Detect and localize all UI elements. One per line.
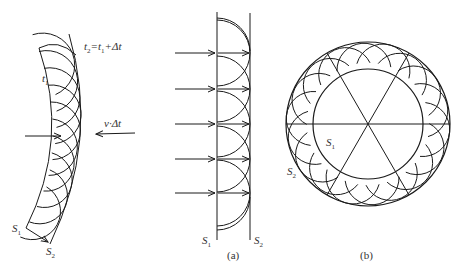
- s1-subscript: 1: [208, 241, 212, 249]
- t1-subscript: 1: [45, 79, 49, 87]
- label-plane-s2: S2: [254, 234, 263, 249]
- label-plane-s1: S1: [202, 234, 211, 249]
- label-sphere-s2: S2: [287, 165, 296, 180]
- cropped-footer-text: [0, 270, 464, 278]
- incident-arrows: [175, 53, 249, 193]
- label-velocity-delta-t: v·Δt: [104, 117, 121, 129]
- wavelet-arc-top: [217, 18, 250, 51]
- wavelet-arc: [49, 119, 78, 175]
- s2-subscript: 2: [52, 252, 56, 260]
- spherical-wavefront-figure: [286, 42, 450, 206]
- label-t2-equation: t2=t1+Δt: [84, 40, 121, 55]
- s1-subscript: 1: [332, 143, 336, 151]
- caption-b: (b): [360, 249, 373, 261]
- curved-wavefront-figure: [20, 33, 135, 244]
- wavelet-arc: [48, 85, 81, 144]
- label-left-s1: S1: [12, 222, 21, 237]
- label-left-s2: S2: [46, 245, 55, 260]
- t2-delta: +Δt: [105, 40, 122, 52]
- s1-subscript: 1: [18, 229, 22, 237]
- caption-a: (a): [227, 249, 239, 261]
- s2-subscript: 2: [293, 172, 297, 180]
- wavelet-arc-bottom: [217, 197, 250, 230]
- diagram-canvas: [0, 0, 464, 278]
- t2-equals: =t: [91, 40, 101, 52]
- wavelet-arc: [286, 91, 316, 145]
- wavelet-arc: [20, 187, 60, 240]
- label-t1: t1: [42, 72, 49, 87]
- wavelet-arc: [44, 68, 80, 128]
- label-sphere-s1: S1: [326, 136, 335, 151]
- plane-wavefront-figure: [175, 12, 250, 240]
- wavelet-arc: [420, 103, 450, 157]
- s2-subscript: 2: [260, 241, 264, 249]
- wavelet-arc: [398, 66, 440, 115]
- incoming-arrow-right: [96, 133, 135, 134]
